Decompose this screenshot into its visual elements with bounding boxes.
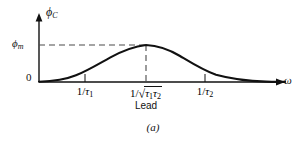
radicand: τ1τ2 [144,86,162,101]
tick2-tau2-subscript: 2 [157,92,161,101]
figure-container: ϕC ϕm 0 ω 1/τ1 1/√τ1τ2 1/τ2 Lead (a) [0,0,306,145]
tick1-subscript: 1 [89,90,93,99]
x-axis-ticks [85,74,205,82]
sqrt-group: √τ1τ2 [139,86,162,101]
x-tick-label-1-over-tau2: 1/τ2 [182,86,228,99]
figure-caption: (a) [128,122,178,133]
tick2-numerator: 1/ [130,87,139,99]
x-axis-label: ω [284,75,292,86]
y-tick-label-phim: ϕm [12,38,23,51]
x-tick-label-1-over-tau1: 1/τ1 [62,86,108,99]
y-axis-label: ϕC [46,6,58,20]
y-axis-label-subscript: C [52,11,57,20]
tick3-subscript: 2 [209,90,213,99]
y-tick-label-subscript: m [18,42,24,51]
lead-annotation: Lead [118,101,174,111]
radical-sign-icon: √ [139,88,146,101]
y-axis [36,13,43,82]
origin-label: 0 [26,72,32,83]
phase-lead-curve [39,45,285,82]
x-tick-label-1-over-sqrt-tau1-tau2: 1/√τ1τ2 [118,86,174,101]
